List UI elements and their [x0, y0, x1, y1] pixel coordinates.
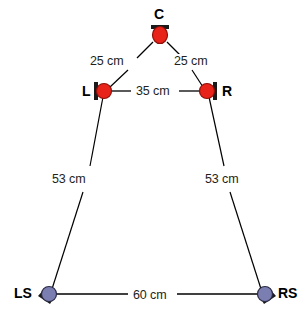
line-r-to-rs-upper: [209, 97, 224, 166]
line-r-to-rs-lower: [230, 192, 261, 289]
speaker-marker-LS: [38, 287, 57, 305]
speaker-cone-RS: [258, 287, 273, 302]
line-l-to-ls-lower: [52, 192, 83, 289]
speaker-marker-C: [151, 25, 169, 44]
dimension-label-c-to-l: 25 cm: [88, 54, 126, 68]
speaker-label-RS: RS: [278, 286, 297, 301]
speaker-marker-R: [200, 82, 218, 100]
speaker-marker-RS: [258, 287, 277, 305]
speaker-marker-L: [94, 82, 112, 100]
speaker-label-LS: LS: [14, 286, 32, 301]
speaker-cone-R: [200, 84, 215, 99]
diagram-canvas: [0, 0, 306, 324]
line-c-to-r-lower: [192, 70, 203, 87]
speaker-label-L: L: [82, 84, 91, 99]
speaker-cone-LS: [42, 287, 57, 302]
dimension-label-ls-to-rs: 60 cm: [131, 288, 169, 302]
speaker-label-C: C: [154, 7, 164, 22]
dimension-label-l-to-ls: 53 cm: [50, 172, 88, 186]
line-l-to-ls-upper: [90, 97, 103, 166]
dimension-label-l-to-r: 35 cm: [134, 84, 172, 98]
speaker-cone-C: [153, 27, 168, 44]
speaker-placement-diagram: C L R LS RS 25 cm 25 cm 35 cm 53 cm 53 c…: [0, 0, 306, 324]
speaker-cone-L: [97, 84, 112, 99]
connector-lines: [52, 42, 261, 294]
line-c-to-l-upper: [137, 42, 153, 58]
speaker-label-R: R: [222, 84, 232, 99]
dimension-label-r-to-rs: 53 cm: [203, 172, 241, 186]
line-c-to-l-lower: [110, 70, 128, 87]
dimension-label-c-to-r: 25 cm: [172, 54, 210, 68]
